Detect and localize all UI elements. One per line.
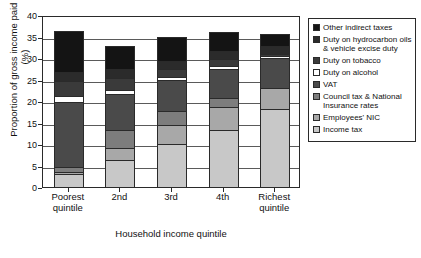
legend-swatch-icon bbox=[313, 114, 320, 121]
bar-segment bbox=[209, 107, 239, 130]
bar-segment bbox=[105, 69, 135, 78]
chart-legend: Other indirect taxesDuty on hydrocarbon … bbox=[308, 18, 416, 142]
bar-segment bbox=[157, 61, 187, 69]
bar-segment bbox=[105, 148, 135, 160]
bar-segment bbox=[54, 174, 84, 187]
bar-segment bbox=[209, 98, 239, 107]
bar-segment bbox=[260, 58, 290, 87]
legend-swatch-icon bbox=[313, 69, 320, 76]
bar-segment bbox=[54, 172, 84, 174]
y-axis-tick-label: 5 bbox=[32, 162, 37, 172]
y-axis-tick-label: 35 bbox=[27, 33, 37, 43]
legend-label: VAT bbox=[323, 80, 337, 89]
bar-segment bbox=[260, 46, 290, 53]
y-axis-tick-label: 25 bbox=[27, 76, 37, 86]
legend-swatch-icon bbox=[313, 24, 320, 31]
bar-segment bbox=[209, 130, 239, 187]
bar-4th bbox=[209, 32, 239, 187]
bar-segment bbox=[157, 77, 187, 80]
bar-segment bbox=[54, 72, 84, 81]
bar-segment bbox=[209, 66, 239, 69]
bar-segment bbox=[105, 78, 135, 90]
bar-segment bbox=[54, 167, 84, 172]
bar-segment bbox=[157, 111, 187, 125]
bar-segment bbox=[260, 34, 290, 47]
legend-label: Income tax bbox=[323, 125, 362, 134]
y-axis: Proportion of gross income paid in tax (… bbox=[0, 0, 42, 190]
legend-item: Duty on tobacco bbox=[313, 56, 412, 65]
bar-segment bbox=[260, 56, 290, 58]
legend-item: Duty on hydrocarbon oils & vehicle excis… bbox=[313, 35, 412, 53]
chart-figure: Proportion of gross income paid in tax (… bbox=[0, 0, 421, 258]
y-axis-tick-label: 30 bbox=[27, 54, 37, 64]
bar-segment bbox=[260, 109, 290, 187]
bar-segment bbox=[105, 94, 135, 131]
bar-segment bbox=[54, 81, 84, 96]
plot-area bbox=[42, 16, 300, 188]
y-axis-tick-label: 20 bbox=[27, 97, 37, 107]
bar-segment bbox=[105, 90, 135, 93]
legend-item: Council tax & National Insurance rates bbox=[313, 92, 412, 110]
legend-label: Other indirect taxes bbox=[323, 23, 392, 32]
bar-segment bbox=[105, 160, 135, 187]
legend-swatch-icon bbox=[313, 93, 320, 100]
legend-item: VAT bbox=[313, 80, 412, 89]
bar-segment bbox=[209, 32, 239, 51]
legend-label: Council tax & National Insurance rates bbox=[323, 92, 412, 110]
bar-richest-quintile bbox=[260, 34, 290, 188]
bar-2nd bbox=[105, 46, 135, 187]
legend-swatch-icon bbox=[313, 36, 320, 43]
legend-label: Employees' NIC bbox=[323, 113, 380, 122]
legend-item: Other indirect taxes bbox=[313, 23, 412, 32]
bar-segment bbox=[54, 31, 84, 72]
y-axis-tick-label: 40 bbox=[27, 11, 37, 21]
bar-segment bbox=[260, 54, 290, 57]
legend-item: Employees' NIC bbox=[313, 113, 412, 122]
bar-segment bbox=[209, 69, 239, 99]
legend-swatch-icon bbox=[313, 126, 320, 133]
legend-swatch-icon bbox=[313, 57, 320, 64]
legend-label: Duty on alcohol bbox=[323, 68, 378, 77]
bar-segment bbox=[157, 80, 187, 111]
bar-segment bbox=[157, 37, 187, 62]
bar-segment bbox=[54, 96, 84, 102]
legend-label: Duty on hydrocarbon oils & vehicle excis… bbox=[323, 35, 412, 53]
x-axis-title: Household income quintile bbox=[42, 228, 300, 239]
y-axis-tick bbox=[38, 188, 42, 189]
bar-segment bbox=[157, 144, 187, 187]
y-axis-tick-label: 10 bbox=[27, 140, 37, 150]
bar-segment bbox=[157, 69, 187, 77]
bar-poorest-quintile bbox=[54, 31, 84, 187]
y-axis-tick-label: 15 bbox=[27, 119, 37, 129]
legend-swatch-icon bbox=[313, 81, 320, 88]
bar-segment bbox=[105, 46, 135, 69]
bar-3rd bbox=[157, 37, 187, 188]
bar-segment bbox=[157, 125, 187, 144]
legend-label: Duty on tobacco bbox=[323, 56, 381, 65]
bar-segment bbox=[105, 130, 135, 148]
bar-segment bbox=[209, 51, 239, 59]
legend-item: Income tax bbox=[313, 125, 412, 134]
legend-item: Duty on alcohol bbox=[313, 68, 412, 77]
x-axis-tick-label: Richestquintile bbox=[231, 191, 317, 213]
bar-segment bbox=[209, 59, 239, 66]
bar-segment bbox=[54, 102, 84, 167]
bar-segment bbox=[260, 88, 290, 109]
